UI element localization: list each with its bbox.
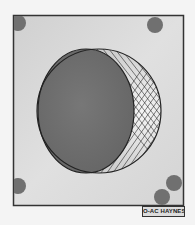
dot-top-right	[147, 17, 163, 33]
dark-disc	[38, 49, 134, 173]
diagram-canvas	[0, 0, 195, 225]
dot-bottom-right-upper	[166, 175, 182, 191]
dot-bottom-left	[10, 178, 26, 194]
dot-bottom-right-lower	[154, 189, 170, 205]
dot-top-left	[10, 15, 26, 31]
caption-label: O-AC HAYNES	[142, 206, 185, 217]
